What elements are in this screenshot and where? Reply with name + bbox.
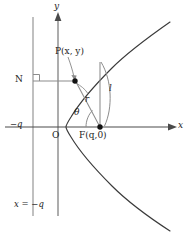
directrix-intercept-label: −q <box>10 120 23 129</box>
segment-l-label: l <box>109 84 112 93</box>
point-marker-p <box>72 78 77 83</box>
leader-line-to-p <box>68 57 74 77</box>
point-marker-focus <box>97 124 102 129</box>
origin-label: O <box>52 131 59 140</box>
x-axis-label: x <box>178 121 183 130</box>
y-axis-label: y <box>54 2 59 11</box>
y-axis-arrowhead <box>55 12 62 21</box>
right-angle-marker <box>33 75 40 82</box>
point-p-label: P(x, y) <box>55 47 84 56</box>
arc-angle-theta <box>86 111 93 128</box>
leader-line-p-tail <box>76 83 88 93</box>
focal-radius-label: r <box>85 95 89 104</box>
directrix-equation-label: x = −q <box>14 200 44 209</box>
focus-label: F(q,0) <box>79 131 107 140</box>
x-axis-arrowhead <box>168 124 177 131</box>
angle-theta-label: θ <box>74 108 79 117</box>
parabola-figure: x y O P(x, y) N F(q,0) −q x = −q r l θ <box>0 0 194 234</box>
point-n-label: N <box>15 75 23 84</box>
